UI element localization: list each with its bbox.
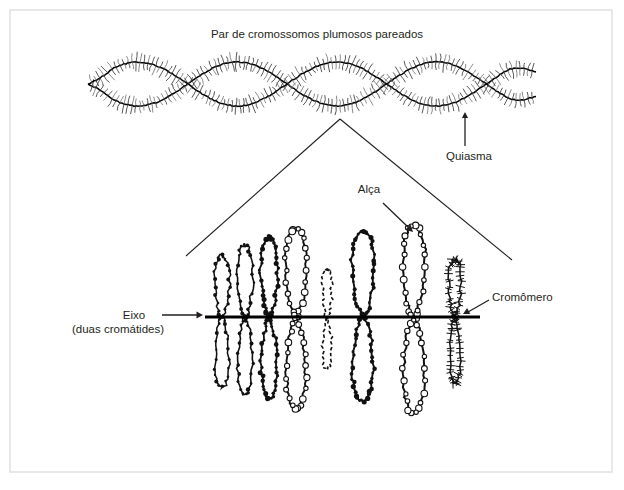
loop-label: Alça bbox=[358, 183, 381, 195]
magnified-lampbrush-detail bbox=[213, 222, 466, 416]
page-title: Par de cromossomos plumosos pareados bbox=[211, 28, 423, 40]
paired-lampbrush-chromosomes bbox=[88, 52, 536, 115]
lampbrush-chromosome-figure: Par de cromossomos plumosos pareados Qui… bbox=[0, 0, 624, 490]
magnification-leader-lines bbox=[186, 119, 512, 260]
chromomere-label: Cromômero bbox=[492, 291, 553, 303]
chiasma-label: Quiasma bbox=[446, 150, 493, 162]
annotation-layer: Quiasma Alça Eixo (duas cromátides) Crom… bbox=[72, 112, 553, 335]
axis-label-line2: (duas cromátides) bbox=[72, 323, 164, 335]
axis-annotation: Eixo (duas cromátides) bbox=[72, 309, 203, 335]
axis-label-line1: Eixo bbox=[123, 309, 145, 321]
chiasma-annotation: Quiasma bbox=[446, 112, 493, 162]
loop-annotation: Alça bbox=[358, 183, 413, 232]
figure-border bbox=[10, 10, 612, 472]
chromomere-annotation: Cromômero bbox=[463, 291, 553, 314]
